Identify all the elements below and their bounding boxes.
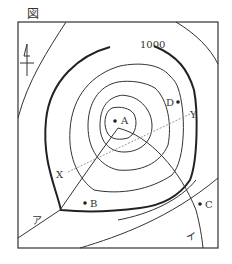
- contour-inner-1: [70, 64, 184, 192]
- contour-lower-right: [80, 178, 218, 248]
- section-x-label: X: [56, 169, 64, 180]
- contour-outer-topright: [176, 22, 218, 64]
- point-d-marker: [176, 100, 180, 104]
- point-b-label: B: [90, 198, 97, 209]
- line-a-label: ア: [32, 215, 42, 226]
- section-y-label: Y: [189, 109, 197, 120]
- point-a-marker: [113, 119, 117, 123]
- map-frame: [18, 22, 218, 248]
- point-b-marker: [83, 201, 87, 205]
- line-i-label: イ: [186, 231, 196, 242]
- contour-label-1000: 1000: [140, 39, 165, 50]
- point-d-label: D: [166, 97, 174, 108]
- point-c-marker: [198, 202, 202, 206]
- north-arrow-icon: [20, 44, 34, 76]
- section-line-xy: [68, 114, 190, 172]
- point-c-label: C: [205, 199, 213, 210]
- point-a-label: A: [120, 115, 129, 126]
- topographic-map: 1000 A B C D X Y ア イ: [0, 0, 232, 264]
- contour-outer-topleft: [18, 22, 66, 118]
